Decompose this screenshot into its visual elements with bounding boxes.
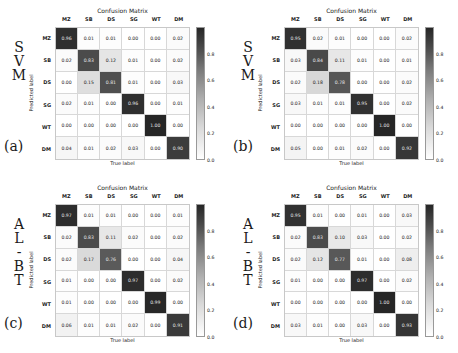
heatmap-matrix: 0.950.010.000.010.000.030.020.830.100.03… bbox=[284, 204, 419, 337]
heatmap-cell: 0.02 bbox=[396, 28, 418, 50]
row-headers: MZSBDSSGWTDM bbox=[38, 27, 53, 160]
heatmap-cell: 0.00 bbox=[78, 292, 100, 314]
heatmap-cell: 0.01 bbox=[100, 28, 122, 50]
heatmap-cell: 0.00 bbox=[285, 292, 307, 314]
heatmap-cell: 0.01 bbox=[285, 271, 307, 293]
colorbar-tick-label: 0.4 bbox=[207, 281, 214, 286]
column-header: WT bbox=[145, 193, 168, 199]
heatmap-cell: 0.03 bbox=[122, 137, 144, 159]
heatmap-cell: 0.02 bbox=[56, 94, 78, 116]
heatmap-cell: 0.83 bbox=[307, 227, 329, 249]
heatmap-cell: 0.02 bbox=[167, 227, 189, 249]
heatmap-cell: 0.99 bbox=[145, 292, 167, 314]
column-header: SB bbox=[307, 16, 330, 22]
heatmap-cell: 0.01 bbox=[351, 205, 373, 227]
y-axis-label: Predicted label bbox=[26, 215, 36, 325]
heatmap-cell: 0.95 bbox=[285, 205, 307, 227]
heatmap-cell: 0.11 bbox=[100, 227, 122, 249]
heatmap-cell: 0.00 bbox=[78, 271, 100, 293]
colorbar-tick-label: 0.8 bbox=[207, 228, 214, 233]
heatmap-cell: 0.01 bbox=[78, 205, 100, 227]
heatmap-cell: 0.00 bbox=[329, 314, 351, 336]
column-header: MZ bbox=[284, 193, 307, 199]
row-header: WT bbox=[267, 116, 282, 138]
heatmap-cell: 0.91 bbox=[167, 314, 189, 336]
heatmap-cell: 0.01 bbox=[329, 137, 351, 159]
heatmap-cell: 0.00 bbox=[122, 292, 144, 314]
heatmap-cell: 0.01 bbox=[167, 94, 189, 116]
heatmap-cell: 0.02 bbox=[122, 227, 144, 249]
x-axis-label: True label bbox=[55, 337, 190, 343]
heatmap-cell: 0.03 bbox=[285, 50, 307, 72]
heatmap-cell: 0.00 bbox=[374, 249, 396, 271]
row-header: MZ bbox=[38, 27, 53, 49]
y-axis-label-text: Predicted label bbox=[28, 251, 34, 288]
model-letter: B bbox=[14, 259, 24, 273]
heatmap-cell: 0.02 bbox=[285, 249, 307, 271]
y-axis-label: Predicted label bbox=[26, 38, 36, 148]
colorbar-tick-label: 0.2 bbox=[436, 131, 443, 136]
heatmap-cell: 0.77 bbox=[329, 249, 351, 271]
heatmap-cell: 0.03 bbox=[285, 94, 307, 116]
colorbar-tick-label: 0.6 bbox=[207, 78, 214, 83]
heatmap-cell: 0.04 bbox=[167, 249, 189, 271]
heatmap-cell: 0.00 bbox=[374, 205, 396, 227]
heatmap-cell: 0.01 bbox=[100, 205, 122, 227]
heatmap-cell: 0.10 bbox=[329, 227, 351, 249]
column-header: SB bbox=[307, 193, 330, 199]
column-headers: MZSBDSSGWTDM bbox=[55, 193, 190, 199]
heatmap-cell: 0.03 bbox=[167, 72, 189, 94]
heatmap-cell: 0.00 bbox=[100, 115, 122, 137]
model-letter: A bbox=[14, 217, 24, 231]
heatmap-cell: 0.02 bbox=[351, 137, 373, 159]
chart-title: Confusion Matrix bbox=[284, 184, 419, 191]
heatmap-cell: 0.03 bbox=[396, 205, 418, 227]
heatmap-matrix: 0.960.010.010.000.000.020.020.830.120.01… bbox=[55, 27, 190, 160]
heatmap-cell: 0.12 bbox=[100, 50, 122, 72]
heatmap-cell: 0.01 bbox=[78, 137, 100, 159]
heatmap-cell: 0.97 bbox=[56, 205, 78, 227]
heatmap-cell: 0.17 bbox=[78, 249, 100, 271]
colorbar-tick-label: 0.8 bbox=[436, 228, 443, 233]
model-letter: B bbox=[243, 259, 253, 273]
heatmap-cell: 0.00 bbox=[167, 115, 189, 137]
heatmap-cell: 0.04 bbox=[56, 137, 78, 159]
colorbar-tick-label: 0.0 bbox=[436, 335, 443, 340]
column-header: SB bbox=[78, 193, 101, 199]
column-headers: MZSBDSSGWTDM bbox=[55, 16, 190, 22]
row-headers: MZSBDSSGWTDM bbox=[38, 204, 53, 337]
heatmap-cell: 0.02 bbox=[396, 94, 418, 116]
colorbar-tick-label: 0.2 bbox=[436, 308, 443, 313]
panel-label-b: (b) bbox=[233, 138, 253, 154]
row-header: DS bbox=[267, 248, 282, 270]
heatmap-cell: 0.00 bbox=[351, 115, 373, 137]
heatmap-cell: 0.83 bbox=[78, 227, 100, 249]
colorbar-ticks: 0.00.20.40.60.8 bbox=[207, 201, 229, 340]
heatmap-cell: 0.01 bbox=[351, 249, 373, 271]
x-axis-label: True label bbox=[284, 337, 419, 343]
heatmap-cell: 0.00 bbox=[374, 137, 396, 159]
heatmap-cell: 0.00 bbox=[56, 72, 78, 94]
heatmap-cell: 0.01 bbox=[78, 94, 100, 116]
panel-b: SVM(b)Confusion MatrixTrue labelPredicte… bbox=[229, 0, 458, 176]
chart-title: Confusion Matrix bbox=[55, 184, 190, 191]
column-header: DM bbox=[168, 16, 191, 22]
row-header: SB bbox=[267, 226, 282, 248]
column-header: DS bbox=[329, 193, 352, 199]
y-axis-label-text: Predicted label bbox=[28, 74, 34, 111]
column-header: MZ bbox=[55, 16, 78, 22]
heatmap-cell: 0.02 bbox=[396, 227, 418, 249]
x-axis-label: True label bbox=[55, 160, 190, 166]
heatmap-cell: 0.12 bbox=[307, 249, 329, 271]
model-letter: L bbox=[243, 231, 252, 245]
colorbar-tick-label: 0.4 bbox=[436, 104, 443, 109]
heatmap-cell: 0.01 bbox=[122, 50, 144, 72]
heatmap-cell: 0.00 bbox=[145, 271, 167, 293]
colorbar bbox=[196, 204, 205, 337]
heatmap-cell: 0.00 bbox=[122, 28, 144, 50]
heatmap-cell: 0.02 bbox=[396, 271, 418, 293]
row-header: DS bbox=[38, 248, 53, 270]
heatmap-cell: 0.00 bbox=[285, 115, 307, 137]
heatmap-cell: 0.00 bbox=[56, 115, 78, 137]
heatmap-cell: 0.00 bbox=[145, 72, 167, 94]
